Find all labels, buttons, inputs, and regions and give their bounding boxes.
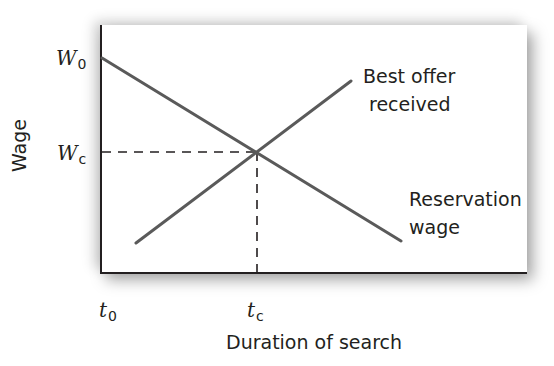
t0-main: t <box>99 298 107 322</box>
reservation-wage-label-line1: Reservation <box>409 190 522 209</box>
tc-label: tc <box>247 300 264 323</box>
y-axis-title: Wage <box>8 119 30 172</box>
chart-figure: Wage W0 Wc t0 tc Duration of search Best… <box>0 0 554 366</box>
tc-subscript: c <box>256 308 264 324</box>
wc-subscript: c <box>79 151 87 167</box>
wc-main: W <box>57 141 78 165</box>
best-offer-label-line1: Best offer <box>363 67 455 86</box>
reservation-wage-label-line2: wage <box>409 218 460 237</box>
best-offer-label-line2: received <box>369 95 451 114</box>
w0-label: W0 <box>56 48 86 71</box>
reservation-wage-line <box>102 58 401 241</box>
t0-subscript: 0 <box>108 308 117 324</box>
tc-main: t <box>247 298 255 322</box>
x-axis-title: Duration of search <box>226 333 402 352</box>
best-offer-line <box>136 81 351 243</box>
wc-label: Wc <box>57 143 86 166</box>
t0-label: t0 <box>99 300 117 323</box>
w0-subscript: 0 <box>78 56 87 72</box>
w0-main: W <box>56 46 77 70</box>
